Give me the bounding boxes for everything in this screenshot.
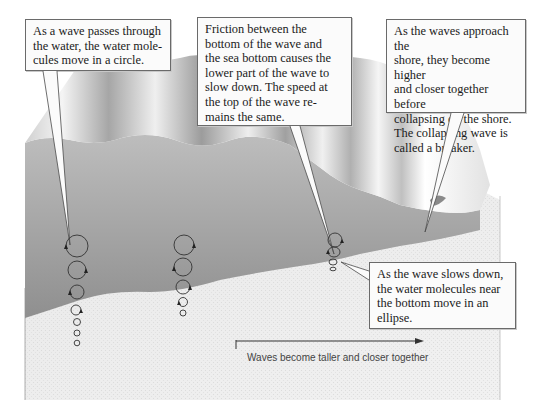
callout-line: ellipse. (377, 311, 509, 326)
callout-ellipse-motion: As the wave slows down, the water molecu… (369, 262, 516, 329)
callout-line: As the waves approach the (394, 24, 519, 53)
callout-line: lower part of the wave to (205, 66, 345, 81)
callout-line: cules move in a circle. (33, 53, 164, 68)
callout-line: slow down. The speed at (205, 80, 345, 95)
callout-line: The collapsing wave is (394, 126, 519, 141)
callout-line: bottom of the wave and (205, 37, 345, 52)
callout-friction: Friction between the bottom of the wave … (197, 17, 352, 126)
callout-line: the water, the water mole- (33, 39, 164, 54)
callout-line: the bottom move in an (377, 296, 509, 311)
callout-circular-motion: As a wave passes through the water, the … (25, 19, 171, 71)
callout-line: As the wave slows down, (377, 267, 509, 282)
callout-line: the sea bottom causes the (205, 51, 345, 66)
callout-line: Friction between the (205, 22, 345, 37)
callout-line: mains the same. (205, 110, 345, 125)
callout-line: called a breaker. (394, 141, 519, 156)
callout-line: the top of the wave re- (205, 95, 345, 110)
callout-line: and closer together before (394, 82, 519, 111)
callout-line: collapsing on the shore. (394, 112, 519, 127)
wave-diagram: As a wave passes through the water, the … (0, 0, 536, 412)
callout-line: shore, they become higher (394, 53, 519, 82)
arrow-caption: Waves become taller and closer together (247, 352, 428, 363)
callout-line: As a wave passes through (33, 24, 164, 39)
callout-line: the water molecules near (377, 282, 509, 297)
callout-breaker: As the waves approach the shore, they be… (386, 19, 526, 113)
